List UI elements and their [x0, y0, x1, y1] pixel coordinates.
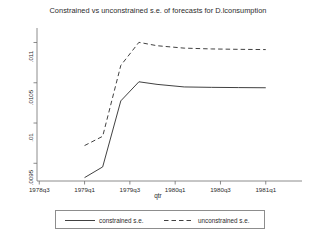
chart-figure: Constrained vs unconstrained s.e. of for…: [0, 0, 316, 240]
legend-label-constrained: constrained s.e.: [99, 217, 143, 224]
legend-item-constrained[interactable]: constrained s.e.: [65, 211, 143, 230]
x-axis-title: qtr: [0, 192, 316, 199]
legend: constrained s.e. unconstrained s.e.: [55, 210, 265, 229]
legend-item-unconstrained[interactable]: unconstrained s.e.: [164, 211, 249, 230]
x-axis-ticks: [39, 181, 265, 185]
legend-line-solid-icon: [65, 217, 95, 224]
data-series-layer: [85, 42, 266, 177]
series-line-dashed: [85, 42, 266, 145]
legend-label-unconstrained: unconstrained s.e.: [198, 217, 249, 224]
plot-area: [0, 0, 316, 240]
axis-lines: [37, 28, 302, 181]
series-line-solid: [85, 82, 266, 178]
y-axis-ticks: [34, 42, 38, 163]
legend-line-dashed-icon: [164, 217, 194, 224]
